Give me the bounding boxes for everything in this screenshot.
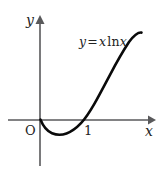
equation-function-name: ln (106, 34, 119, 49)
plot-area (0, 0, 164, 170)
x-axis-label: x (145, 124, 153, 138)
equation-annotation: y=xlnx (79, 36, 127, 49)
x-tick-label-one: 1 (84, 124, 92, 137)
equation-operator: = (86, 34, 99, 49)
y-axis-label: y (26, 13, 34, 27)
y-axis-arrowhead (36, 15, 45, 24)
origin-label: O (25, 124, 36, 137)
figure-canvas: y x O 1 y=xlnx (0, 0, 164, 170)
equation-argument: x (120, 34, 127, 49)
